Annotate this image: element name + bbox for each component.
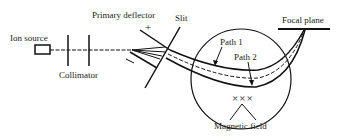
primary-deflector-label: Primary deflector	[92, 10, 155, 20]
magnetic-field-pointer-right	[242, 104, 256, 120]
deflector-minus-sign	[126, 59, 134, 63]
slit-label: Slit	[175, 13, 188, 23]
focal-plane-label: Focal plane	[282, 15, 324, 25]
collimator-label: Collimator	[59, 70, 98, 80]
magnetic-field-pointer-left	[230, 104, 242, 120]
ion-source-box	[35, 45, 50, 54]
path-1-label: Path 1	[220, 37, 243, 47]
mass-spectrometer-diagram: Ion source Collimator Primary deflector …	[0, 0, 338, 140]
ion-source-label: Ion source	[10, 33, 48, 43]
path-2-label: Path 2	[234, 52, 257, 62]
path-2-arrowhead	[249, 80, 254, 86]
magnetic-field-symbols: ×××	[232, 92, 254, 104]
deflector-plus-sign: +	[145, 21, 151, 33]
deflector-plate-upper	[140, 30, 170, 50]
deflected-beam-fan	[132, 47, 166, 59]
magnetic-field-label: Magnetic field	[214, 121, 267, 131]
